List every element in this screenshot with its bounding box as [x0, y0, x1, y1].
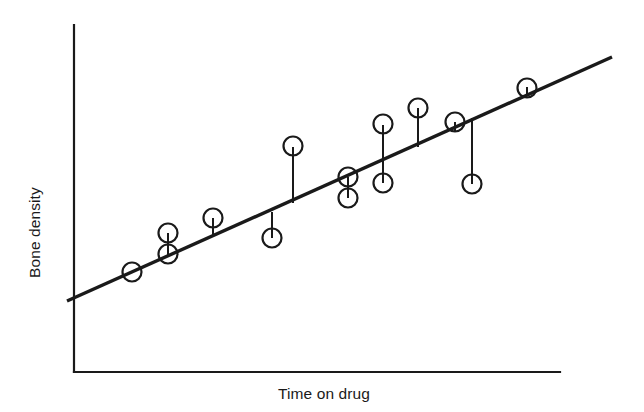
data-point [159, 245, 178, 264]
data-point [263, 229, 282, 248]
data-point [446, 113, 465, 132]
y-axis-label: Bone density [26, 187, 44, 278]
data-point [518, 79, 537, 98]
data-point [123, 263, 142, 282]
data-point [204, 209, 223, 228]
data-point [374, 174, 393, 193]
data-point [284, 137, 303, 156]
data-point [409, 99, 428, 118]
chart-figure: Bone density Time on drug [0, 0, 644, 412]
data-point [463, 175, 482, 194]
data-point [339, 168, 358, 187]
data-point [159, 224, 178, 243]
data-point [374, 115, 393, 134]
data-point [339, 189, 358, 208]
x-axis-label: Time on drug [278, 385, 370, 403]
scatter-plot-svg [0, 0, 644, 412]
axes-group [74, 25, 560, 372]
data-markers-group [123, 79, 537, 282]
